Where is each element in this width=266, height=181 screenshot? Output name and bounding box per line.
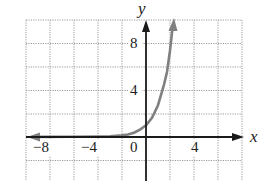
y-axis-label: y: [138, 0, 146, 17]
y-tick-4: 4: [130, 83, 138, 98]
x-axis-label: x: [250, 128, 258, 145]
y-tick-8: 8: [130, 36, 138, 51]
y-axis-arrow-icon: [142, 20, 150, 32]
x-tick-neg8: −8: [33, 140, 49, 155]
exponential-curve: [34, 28, 173, 137]
x-tick-0: 0: [130, 140, 138, 155]
x-axis-arrow-icon: [232, 133, 244, 141]
x-tick-neg4: −4: [81, 140, 97, 155]
x-tick-4: 4: [191, 140, 199, 155]
